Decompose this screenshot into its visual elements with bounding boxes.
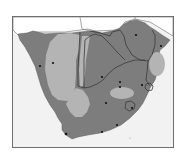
city-dot-5 xyxy=(101,76,103,78)
city-dot-2 xyxy=(39,65,41,67)
city-dot-8 xyxy=(141,84,143,86)
city-dot-7 xyxy=(119,86,121,88)
city-dot-6 xyxy=(119,81,121,83)
city-dot-13 xyxy=(65,133,68,136)
city-dot-3 xyxy=(135,34,137,36)
city-dot-9 xyxy=(105,102,107,104)
city-dot-12 xyxy=(101,131,103,133)
city-dot-1 xyxy=(52,62,54,64)
city-dot-11 xyxy=(116,124,118,126)
southern-africa-map xyxy=(12,16,174,148)
city-dot-4 xyxy=(160,45,162,47)
city-dot-10 xyxy=(131,107,133,109)
map-frame xyxy=(12,16,174,148)
light-zone-free-state xyxy=(110,87,134,99)
ocean-speck xyxy=(129,137,130,138)
